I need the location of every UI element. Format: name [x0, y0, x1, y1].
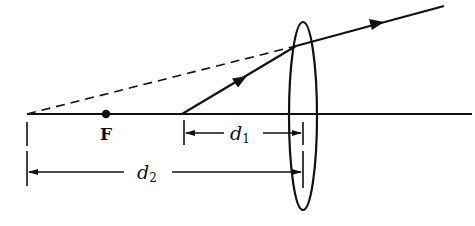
- focal-point-dot: [102, 110, 110, 118]
- d2-label: d2: [134, 163, 160, 184]
- refracted-ray-arrow-icon: [369, 19, 384, 30]
- d1-var: d: [230, 122, 242, 144]
- d2-sub: 2: [149, 171, 157, 185]
- lens-ray-diagram: F d1 d2: [0, 0, 475, 226]
- d1-sub: 1: [242, 132, 250, 146]
- d1-label: d1: [227, 124, 253, 145]
- focal-point-label: F: [100, 126, 112, 143]
- refracted-ray: [296, 6, 444, 46]
- incident-ray-arrow-icon: [232, 76, 247, 88]
- d2-var: d: [137, 161, 149, 183]
- diagram-svg: [0, 0, 475, 226]
- virtual-ray-extension: [27, 46, 296, 114]
- focal-point-text: F: [100, 124, 112, 144]
